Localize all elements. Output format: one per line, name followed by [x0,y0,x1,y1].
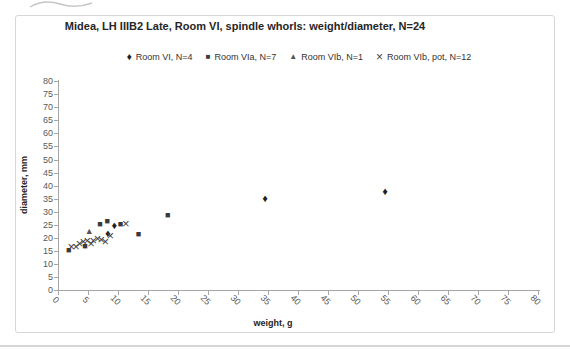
y-tick-label: 25 [31,221,53,230]
page: { "chart": { "frame_border_color": "#d6d… [0,0,570,350]
page-bottom-shadow [0,345,570,347]
legend-label: Room VIb, pot, N=12 [387,52,471,62]
chart-title: Midea, LH IIIB2 Late, Room VI, spindle w… [15,20,475,32]
y-tick-mark [54,160,58,161]
x-axis-line [58,290,540,291]
y-tick-label: 60 [31,129,53,138]
legend-label: Room VI, N=4 [136,52,193,62]
y-tick-label: 45 [31,169,53,178]
legend-label: Room VIb, N=1 [301,52,363,62]
y-tick-label: 20 [31,234,53,243]
data-point-square: ■ [165,211,170,220]
square-marker-icon: ■ [206,53,211,61]
y-tick-label: 80 [31,77,53,86]
y-tick-label: 35 [31,195,53,204]
y-tick-mark [54,120,58,121]
y-tick-label: 70 [31,103,53,112]
data-point-x: × [106,229,114,242]
data-point-square: ■ [136,230,141,239]
y-tick-mark [54,225,58,226]
data-point-diamond: ♦ [382,186,388,197]
legend-item: ■Room VIa, N=7 [206,52,277,62]
x-axis-title: weight, g [58,318,488,328]
y-tick-mark [54,133,58,134]
y-tick-label: 30 [31,208,53,217]
y-tick-label: 10 [31,260,53,269]
y-tick-label: 40 [31,182,53,191]
y-tick-label: 50 [31,156,53,165]
x-marker-icon: × [376,51,383,63]
chart-legend: ♦Room VI, N=4■Room VIa, N=7▲Room VIb, N=… [58,51,540,63]
y-tick-mark [54,81,58,82]
y-axis-title: diameter, mm [19,135,29,235]
y-tick-mark [54,277,58,278]
y-tick-label: 55 [31,142,53,151]
data-point-diamond: ♦ [262,193,268,204]
y-tick-mark [54,94,58,95]
y-tick-mark [54,186,58,187]
y-tick-label: 75 [31,90,53,99]
y-tick-mark [54,238,58,239]
diamond-marker-icon: ♦ [127,52,132,62]
y-tick-label: 5 [31,273,53,282]
data-point-square: ■ [104,217,109,226]
triangle-marker-icon: ▲ [289,53,297,61]
scan-artifact-mark [28,0,98,10]
y-tick-label: 65 [31,116,53,125]
y-tick-mark [54,146,58,147]
y-tick-mark [54,199,58,200]
y-tick-mark [54,107,58,108]
legend-item: ♦Room VI, N=4 [127,52,193,62]
y-tick-label: 0 [31,286,53,295]
legend-label: Room VIa, N=7 [214,52,276,62]
y-tick-mark [54,251,58,252]
data-point-x: × [122,217,130,230]
legend-item: ▲Room VIb, N=1 [289,52,363,62]
y-axis-line [58,80,59,291]
y-tick-mark [54,173,58,174]
legend-item: ×Room VIb, pot, N=12 [376,51,471,63]
y-tick-mark [54,212,58,213]
y-tick-mark [54,290,58,291]
y-tick-mark [54,264,58,265]
data-point-square: ■ [97,220,102,229]
y-tick-label: 15 [31,247,53,256]
